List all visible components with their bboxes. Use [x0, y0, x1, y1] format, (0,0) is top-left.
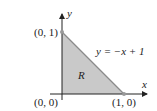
point-0-1 [60, 30, 64, 34]
point-label-0-1: (0, 1) [34, 26, 58, 39]
y-axis-label: y [66, 7, 72, 19]
point-label-0-0: (0, 0) [34, 96, 58, 109]
point-label-1-0: (1, 0) [112, 96, 136, 109]
diagram-canvas: y x (0, 1) (0, 0) (1, 0) y = −x + 1 R [0, 0, 157, 111]
equation-label: y = −x + 1 [95, 45, 145, 57]
x-axis-label: x [141, 78, 147, 90]
region-label: R [77, 69, 85, 81]
